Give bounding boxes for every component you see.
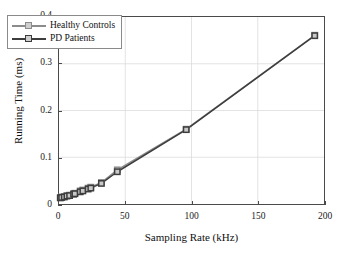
data-point-marker	[88, 185, 93, 190]
legend-item-healthy-controls: Healthy Controls	[12, 19, 115, 32]
x-tick-mark	[125, 201, 126, 205]
y-tick-label: 0.3	[0, 59, 52, 69]
data-point-marker	[312, 33, 317, 38]
x-tick-label: 100	[184, 212, 198, 222]
data-point-marker	[115, 169, 120, 174]
y-tick-mark	[58, 111, 62, 112]
legend-label-healthy-controls: Healthy Controls	[50, 21, 115, 31]
data-point-marker	[72, 191, 77, 196]
x-tick-label: 150	[251, 212, 265, 222]
legend-square-marker-icon	[25, 22, 32, 29]
y-tick-mark	[58, 205, 62, 206]
series-line	[60, 35, 314, 197]
legend: Healthy Controls PD Patients	[7, 15, 122, 49]
data-point-marker	[184, 127, 189, 132]
x-tick-mark	[58, 201, 59, 205]
x-tick-mark	[258, 201, 259, 205]
y-tick-mark	[58, 63, 62, 64]
y-tick-label: 0.2	[0, 106, 52, 116]
series-line	[60, 36, 314, 198]
x-tick-mark	[325, 201, 326, 205]
y-tick-label: 0	[0, 200, 52, 210]
x-tick-label: 200	[318, 212, 332, 222]
figure-container: 00.10.20.30.4 050100150200 Sampling Rate…	[0, 0, 341, 257]
y-tick-mark	[58, 158, 62, 159]
x-tick-mark	[192, 201, 193, 205]
x-axis-title: Sampling Rate (kHz)	[58, 231, 325, 243]
x-tick-label: 0	[56, 212, 61, 222]
legend-label-pd-patients: PD Patients	[50, 34, 95, 44]
y-tick-label: 0.1	[0, 153, 52, 163]
legend-swatch-healthy-controls	[12, 20, 46, 31]
data-point-marker	[99, 181, 104, 186]
x-tick-label: 50	[120, 212, 130, 222]
legend-swatch-pd-patients	[12, 33, 46, 44]
legend-square-marker-icon	[25, 35, 32, 42]
legend-item-pd-patients: PD Patients	[12, 32, 115, 45]
